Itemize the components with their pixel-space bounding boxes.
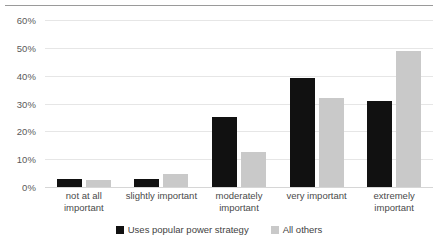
y-axis-tick-label: 40% <box>17 70 36 81</box>
y-axis-tick-label: 50% <box>17 42 36 53</box>
gridline <box>45 187 433 188</box>
x-axis-tick-label: slightly important <box>123 190 201 214</box>
y-axis-tick-labels: 0%10%20%30%40%50%60% <box>0 20 40 192</box>
x-axis-tick-label: not at allimportant <box>45 190 123 214</box>
y-axis-tick-label: 0% <box>22 182 36 193</box>
bar-groups <box>45 20 433 187</box>
x-axis-tick-label-line: important <box>357 202 431 214</box>
x-axis-tick-label-line: moderately <box>202 190 276 202</box>
bar-group <box>45 20 123 187</box>
legend: Uses popular power strategyAll others <box>0 224 438 235</box>
bar[interactable] <box>290 78 315 187</box>
y-axis-tick-label: 60% <box>17 15 36 26</box>
bar[interactable] <box>367 101 392 187</box>
x-axis-tick-label: moderatelyimportant <box>200 190 278 214</box>
legend-swatch-icon <box>271 226 279 234</box>
bar-pair <box>200 20 278 187</box>
bar-pair <box>123 20 201 187</box>
bar-pair <box>278 20 356 187</box>
x-axis-tick-label: extremelyimportant <box>355 190 433 214</box>
bar[interactable] <box>241 152 266 187</box>
bar-group <box>355 20 433 187</box>
x-axis-tick-label-line: important <box>202 202 276 214</box>
bar[interactable] <box>57 179 82 187</box>
x-axis-tick-label-line: important <box>47 202 121 214</box>
bar[interactable] <box>163 174 188 187</box>
x-axis-tick-label-line: not at all <box>47 190 121 202</box>
bar-chart: 0%10%20%30%40%50%60% not at allimportant… <box>0 0 438 249</box>
bar-group <box>123 20 201 187</box>
legend-swatch-icon <box>116 226 124 234</box>
bar[interactable] <box>86 180 111 187</box>
x-axis-tick-label-line: slightly important <box>125 190 199 202</box>
legend-label: Uses popular power strategy <box>128 224 249 235</box>
x-axis-tick-labels: not at allimportantslightly importantmod… <box>45 190 433 214</box>
bar[interactable] <box>396 51 421 187</box>
y-axis-tick-label: 30% <box>17 98 36 109</box>
bar[interactable] <box>134 179 159 187</box>
bar-pair <box>45 20 123 187</box>
x-axis-tick-label: very important <box>278 190 356 214</box>
y-axis-tick-label: 20% <box>17 126 36 137</box>
x-axis-tick-label-line: very important <box>280 190 354 202</box>
top-divider-rule <box>5 5 433 6</box>
bar[interactable] <box>212 117 237 187</box>
legend-label: All others <box>283 224 323 235</box>
bar[interactable] <box>319 98 344 187</box>
y-axis-tick-label: 10% <box>17 154 36 165</box>
legend-item[interactable]: Uses popular power strategy <box>116 224 249 235</box>
x-axis-tick-label-line: extremely <box>357 190 431 202</box>
legend-item[interactable]: All others <box>271 224 323 235</box>
bar-group <box>278 20 356 187</box>
bar-pair <box>355 20 433 187</box>
bar-group <box>200 20 278 187</box>
